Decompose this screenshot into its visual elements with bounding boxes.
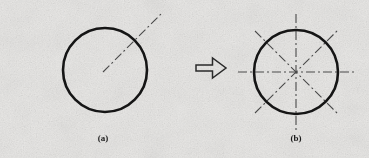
figure-page: (a) (b) xyxy=(0,0,369,158)
transform-arrow xyxy=(196,58,226,78)
figure-drawing xyxy=(0,0,369,158)
figure-a-centerline-diagonal xyxy=(103,12,163,72)
figure-a-group xyxy=(63,12,163,112)
figure-b-group xyxy=(238,14,355,130)
figure-a-caption: (a) xyxy=(98,133,109,143)
figure-b-caption: (b) xyxy=(291,133,302,143)
